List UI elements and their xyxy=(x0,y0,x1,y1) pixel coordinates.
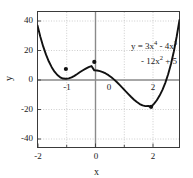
ytick-label-40: 40 xyxy=(10,16,33,25)
inner-xtick-label-0: 0 xyxy=(99,83,119,92)
equation-annotation: y = 3x4 - 4x3 - 12x2 + 5 xyxy=(101,37,177,67)
equation-line-2: - 12x2 + 5 xyxy=(101,52,177,67)
ytick-label-minus-20: -20 xyxy=(8,105,33,114)
inner-xtick-label-2: 2 xyxy=(143,83,163,92)
inner-xtick-label-minus-1: -1 xyxy=(57,83,77,92)
equation-line-1: y = 3x4 - 4x3 xyxy=(101,37,177,52)
ytick-label-20: 20 xyxy=(10,46,33,55)
chart-figure: 40 20 0 -20 -40 -2 0 2 -1 0 2 y x y = 3x… xyxy=(0,0,193,178)
marker-local-minimum xyxy=(64,67,68,71)
xtick-label-minus-2: -2 xyxy=(28,152,48,161)
xtick-label-2: 2 xyxy=(143,152,163,161)
ytick-label-minus-40: -40 xyxy=(8,134,33,143)
marker-local-maximum xyxy=(92,60,96,64)
y-axis-label: y xyxy=(3,76,14,81)
axis-zero-lines xyxy=(38,12,179,147)
xtick-label-0: 0 xyxy=(86,152,106,161)
marker-absolute-minimum xyxy=(149,105,153,109)
x-axis-label: x xyxy=(0,166,193,177)
